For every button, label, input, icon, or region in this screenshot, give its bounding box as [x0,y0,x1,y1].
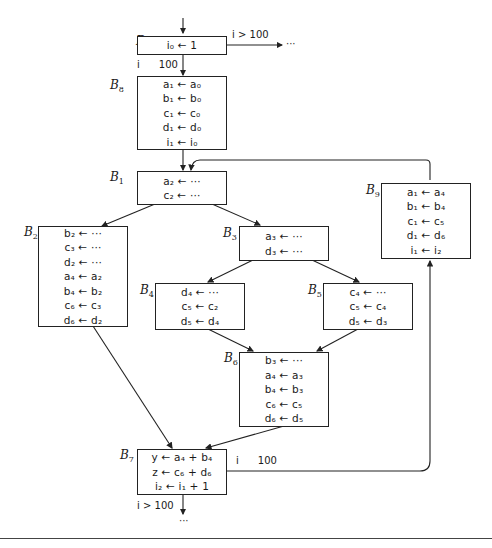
ellipsis-b0-exit: ··· [286,38,296,49]
edge-b4-b6 [208,329,253,351]
stmt: i₂ ← i₁ + 1 [155,479,209,494]
edge-b3-b4 [208,260,253,282]
cond-b7-exit: i > 100 [137,500,174,511]
block-b7: y ← a₄ + b₄ z ← c₆ + d₆ i₂ ← i₁ + 1 [137,449,227,495]
stmt: a₂ ← ··· [163,174,201,189]
stmt: d₄ ← ··· [181,285,219,300]
stmt: b₄ ← b₂ [64,284,103,299]
block-b1: a₂ ← ··· c₂ ← ··· [137,171,227,205]
stmt: a₄ ← a₂ [64,269,102,284]
stmt: d₃ ← ··· [265,244,303,259]
stmt: c₁ ← c₅ [408,214,445,229]
stmt: b₃ ← ··· [265,353,303,368]
stmt: c₄ ← ··· [349,285,386,300]
block-b0: i₀ ← 1 [137,36,227,55]
stmt: b₂ ← ··· [64,226,102,241]
block-label-b2: B2 [24,225,38,239]
stmt: z ← c₆ + d₆ [152,465,212,480]
stmt: c₅ ← c₄ [350,299,387,314]
cond-b0-exit: i > 100 [232,29,269,40]
block-label-b5: B5 [308,283,322,297]
stmt: b₄ ← b₃ [265,382,304,397]
stmt: c₆ ← c₃ [65,298,102,313]
stmt: i₁ ← i₀ [166,135,197,150]
stmt: i₁ ← i₂ [410,243,441,258]
block-label-b7: B7 [120,448,134,462]
edge-b1-b3 [212,204,260,225]
block-b9: a₁ ← a₄ b₁ ← b₄ c₁ ← c₅ d₁ ← d₆ i₁ ← i₂ [381,183,471,259]
edge-b2-b7 [93,326,172,448]
block-label-b6: B6 [224,351,238,365]
stmt: d₅ ← d₄ [181,314,220,329]
block-b3: a₃ ← ··· d₃ ← ··· [239,226,329,261]
stmt: b₁ ← b₀ [163,91,202,106]
stmt: c₃ ← ··· [64,240,101,255]
edge-b5-b6 [317,329,358,351]
edge-b1-b2 [102,204,155,226]
stmt: a₁ ← a₄ [407,185,445,200]
block-label-b9: B9 [366,183,380,197]
block-label-b4: B4 [140,283,154,297]
stmt: d₁ ← d₆ [407,228,446,243]
bottom-rule [0,538,492,539]
stmt: d₆ ← d₅ [265,411,304,426]
block-b5: c₄ ← ··· c₅ ← c₄ d₅ ← d₃ [323,283,413,330]
stmt: a₃ ← ··· [265,229,303,244]
block-b2: b₂ ← ··· c₃ ← ··· d₂ ← ··· a₄ ← a₂ b₄ ← … [38,226,128,327]
stmt: i₀ ← 1 [167,38,197,53]
stmt: b₁ ← b₄ [407,199,446,214]
stmt: y ← a₄ + b₄ [152,450,213,465]
block-label-b3: B3 [223,226,237,240]
stmt: c₁ ← c₀ [164,106,201,121]
stmt: c₂ ← ··· [163,188,200,203]
block-b6: b₃ ← ··· a₄ ← a₃ b₄ ← b₃ c₆ ← c₅ d₆ ← d₅ [239,352,329,427]
stmt: c₅ ← c₂ [182,299,219,314]
block-b4: d₄ ← ··· c₅ ← c₂ d₅ ← d₄ [155,283,245,330]
stmt: a₄ ← a₃ [265,368,303,383]
ellipsis-b7-exit: ··· [179,515,189,526]
block-label-b8: B8 [110,78,124,92]
stmt: d₁ ← d₀ [163,120,202,135]
cond-b7-loop: i 100 [236,455,277,466]
stmt: d₅ ← d₃ [349,314,388,329]
edge-b6-b7 [206,426,284,448]
stmt: d₂ ← ··· [64,255,102,270]
stmt: c₆ ← c₅ [266,397,303,412]
stmt: d₆ ← d₂ [64,313,103,328]
block-b8: a₁ ← a₀ b₁ ← b₀ c₁ ← c₀ d₁ ← d₀ i₁ ← i₀ [137,76,227,150]
stmt: a₁ ← a₀ [163,77,201,92]
cond-b0-continue: i 100 [137,59,178,70]
block-label-b1: B1 [110,170,124,184]
edge-b3-b5 [312,260,359,282]
